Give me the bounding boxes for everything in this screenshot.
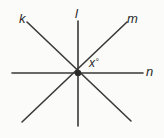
geometry-figure: k l m n x° — [0, 0, 164, 138]
line-label-n: n — [146, 65, 153, 78]
angle-label-x: x° — [89, 57, 99, 70]
degree-symbol-icon: ° — [96, 57, 100, 67]
line-label-k: k — [19, 12, 26, 25]
line-label-m: m — [127, 12, 138, 25]
intersection-point — [75, 70, 81, 76]
line-m — [22, 22, 127, 122]
angle-variable: x — [89, 56, 95, 70]
line-label-l: l — [75, 7, 78, 20]
